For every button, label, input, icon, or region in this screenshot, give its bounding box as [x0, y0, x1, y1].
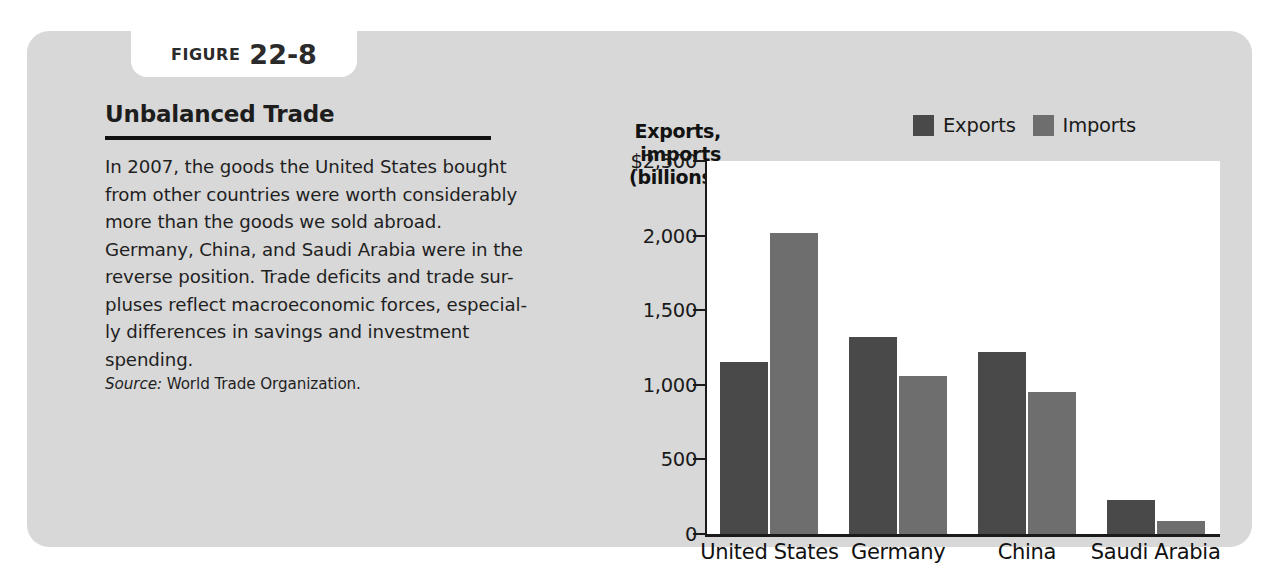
bar-imports-germany: [899, 376, 947, 534]
legend-entry-imports: Imports: [1033, 114, 1136, 137]
bar-exports-saudi-arabia: [1107, 500, 1155, 534]
body-line: spending.: [105, 346, 495, 374]
x-axis-label: Saudi Arabia: [1091, 540, 1221, 564]
y-tick-mark: [693, 160, 705, 162]
figure-label-word: FIGURE: [171, 45, 240, 64]
y-tick-label: 1,500: [607, 299, 697, 322]
bar-exports-germany: [849, 337, 897, 534]
legend-swatch-exports: [913, 115, 934, 136]
y-tick-mark: [693, 384, 705, 386]
figure-body-text: In 2007, the goods the United States bou…: [105, 153, 495, 373]
bar-imports-china: [1028, 392, 1076, 534]
figure-text-column: Unbalanced Trade In 2007, the goods the …: [105, 101, 495, 393]
x-axis-label: Germany: [851, 540, 945, 564]
y-tick-label: 0: [607, 523, 697, 546]
legend-swatch-imports: [1033, 115, 1054, 136]
legend-label: Exports: [943, 114, 1016, 137]
bar-exports-united-states: [720, 362, 768, 534]
x-axis-label: China: [998, 540, 1057, 564]
body-line: In 2007, the goods the United States bou…: [105, 153, 495, 181]
y-tick-label: 1,000: [607, 373, 697, 396]
figure-number: 22-8: [249, 39, 317, 70]
bar-imports-saudi-arabia: [1157, 521, 1205, 534]
chart-legend: ExportsImports: [913, 114, 1136, 137]
body-line: from other countries were worth consider…: [105, 181, 495, 209]
y-axis-line: [705, 161, 707, 534]
body-line: reverse position. Trade deficits and tra…: [105, 263, 495, 291]
y-axis-title-line: Exports,: [623, 120, 721, 143]
legend-entry-exports: Exports: [913, 114, 1016, 137]
bar-exports-china: [978, 352, 1026, 534]
figure-source: Source: World Trade Organization.: [105, 375, 495, 393]
figure-title: Unbalanced Trade: [105, 101, 495, 127]
title-divider: [105, 136, 491, 140]
y-tick-label: 500: [607, 448, 697, 471]
figure-number-tab: FIGURE 22-8: [131, 31, 357, 77]
figure-panel: FIGURE 22-8 Unbalanced Trade In 2007, th…: [27, 31, 1252, 547]
bar-imports-united-states: [770, 233, 818, 534]
body-line: Germany, China, and Saudi Arabia were in…: [105, 236, 495, 264]
y-tick-mark: [693, 235, 705, 237]
y-tick-mark: [693, 309, 705, 311]
source-text: World Trade Organization.: [167, 375, 361, 393]
legend-label: Imports: [1063, 114, 1136, 137]
y-tick-label: $2,500: [607, 150, 697, 173]
body-line: ly differences in savings and investment: [105, 318, 495, 346]
y-tick-mark: [693, 458, 705, 460]
y-tick-label: 2,000: [607, 224, 697, 247]
x-axis-label: United States: [700, 540, 838, 564]
body-line: pluses reflect macroeconomic forces, esp…: [105, 291, 495, 319]
x-axis-line: [705, 534, 1220, 537]
bar-chart: Exports,imports(billions) ExportsImports…: [623, 94, 1223, 544]
source-label: Source:: [105, 375, 162, 393]
y-tick-mark: [693, 533, 705, 535]
body-line: more than the goods we sold abroad.: [105, 208, 495, 236]
